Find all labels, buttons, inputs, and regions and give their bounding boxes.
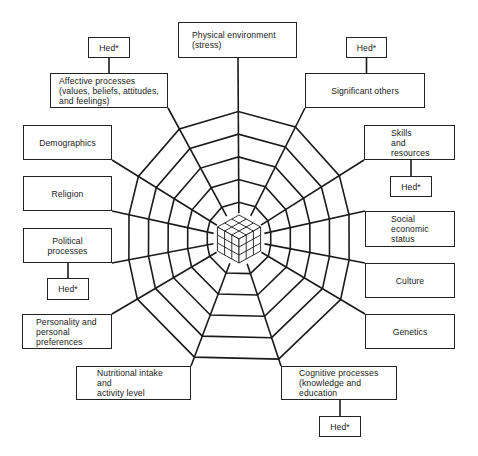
factor-label: Demographics [39,138,96,148]
hed-box-political-processes: Hed* [47,278,89,300]
factor-box-religion: Religion [23,176,112,211]
factor-box-physical-environment: Physical environment (stress) [178,22,297,58]
hed-box-significant-others: Hed* [346,37,387,58]
hed-box-cognitive-processes: Hed* [319,416,361,437]
hed-label: Hed* [357,43,377,53]
factor-label: Nutritional intake and activity level [97,368,163,398]
hed-box-affective-processes: Hed* [88,37,130,58]
factor-label: Genetics [393,327,428,337]
factor-box-political-processes: Political processes [23,228,112,263]
hed-label: Hed* [401,182,421,192]
hed-label: Hed* [58,284,78,294]
factor-box-social-economic-status: Social economic status [365,211,455,247]
factor-box-culture: Culture [365,263,455,298]
hed-label: Hed* [99,43,119,53]
factor-label: Skills and resources [391,128,430,158]
factor-box-nutritional-intake: Nutritional intake and activity level [76,366,191,400]
factor-label: Significant others [331,86,399,96]
hed-box-skills-and-resources: Hed* [390,176,432,197]
factor-label: Social economic status [391,214,429,244]
rubiks-cube-icon [217,215,260,263]
factor-box-skills-and-resources: Skills and resources [364,125,455,160]
diagram-canvas: Physical environment (stress)Affective p… [0,0,478,456]
factor-box-demographics: Demographics [23,125,112,160]
factor-label: Culture [396,276,424,286]
factor-label: Religion [52,189,84,199]
factor-label: Affective processes (values, beliefs, at… [59,76,159,106]
factor-label: Political processes [47,236,87,256]
factor-box-genetics: Genetics [365,314,455,349]
hed-label: Hed* [330,422,350,432]
factor-label: Physical environment (stress) [192,30,276,50]
factor-box-significant-others: Significant others [305,73,425,108]
factor-label: Cognitive processes (knowledge and educa… [299,368,378,398]
factor-box-personality: Personality and personal preferences [22,314,112,349]
factor-box-cognitive-processes: Cognitive processes (knowledge and educa… [281,366,397,400]
factor-label: Personality and personal preferences [36,317,97,347]
factor-box-affective-processes: Affective processes (values, beliefs, at… [50,73,168,108]
